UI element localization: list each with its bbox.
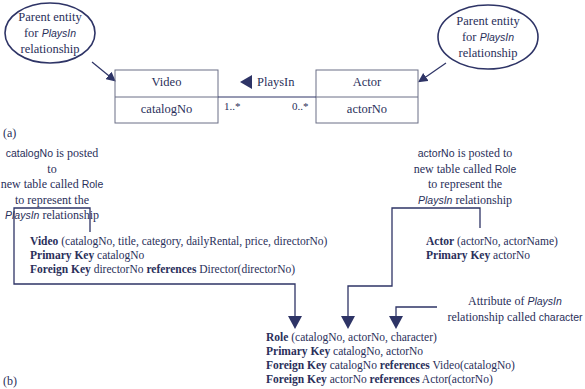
schema-relation-line: Actor (actorNo, actorName) [426, 234, 558, 248]
schema-fk-line: Foreign Key directorNo references Direct… [30, 262, 327, 276]
arrow-down-icon [341, 316, 355, 329]
actor-schema: Actor (actorNo, actorName) Primary Key a… [426, 234, 558, 262]
pk-label: Primary Key [30, 249, 94, 261]
note-sans: character [539, 311, 583, 323]
schema-pk-line: Primary Key catalogNo, actorNo [266, 344, 515, 358]
relation-attributes: (actorNo, actorName) [454, 235, 558, 247]
relationship-label: PlaysIn [257, 75, 295, 90]
video-schema: Video (catalogNo, title, category, daily… [30, 234, 327, 276]
fk-attribute: actorNo [327, 373, 370, 385]
callout-text: for [462, 30, 480, 44]
relation-attributes: (catalogNo, title, category, dailyRental… [58, 235, 327, 247]
note-line: actorNo is posted to [380, 146, 550, 162]
note-line: catalogNo is posted to [0, 146, 104, 177]
schema-pk-line: Primary Key catalogNo [30, 248, 327, 262]
pk-value: actorNo [490, 249, 530, 261]
note-text: relationship [452, 193, 512, 207]
part-a-label: (a) [3, 126, 16, 141]
fk-reference: Video(catalogNo) [430, 359, 515, 371]
video-entity-attribute: catalogNo [115, 102, 218, 117]
video-entity-name: Video [115, 75, 218, 90]
fk-attribute: catalogNo [327, 359, 380, 371]
callout-line: relationship [6, 41, 94, 57]
references-label: references [380, 359, 430, 371]
callout-line: Parent entity [440, 13, 536, 29]
callout-line: relationship [440, 45, 536, 61]
note-line: new table called Role [0, 177, 104, 193]
schema-relation-line: Video (catalogNo, title, category, daily… [30, 234, 327, 248]
schema-fk-line: Foreign Key catalogNo references Video(c… [266, 358, 515, 372]
multiplicity-video: 1..* [224, 100, 241, 112]
relation-name: Video [30, 235, 58, 247]
part-b-label: (b) [3, 374, 17, 389]
fk-label: Foreign Key [266, 373, 327, 385]
pk-label: Primary Key [426, 249, 490, 261]
note-sans: catalogNo [6, 147, 53, 159]
schema-relation-line: Role (catalogNo, actorNo, character) [266, 330, 515, 344]
note-text: is posted to [47, 146, 98, 176]
relation-name: Actor [426, 235, 454, 247]
references-label: references [370, 373, 420, 385]
note-line: Attribute of PlaysIn [440, 294, 585, 310]
note-text: new table called [414, 162, 495, 176]
fk-reference: Actor(actorNo) [420, 373, 493, 385]
note-text: Attribute of [468, 294, 527, 308]
references-label: references [146, 263, 196, 275]
playsin-direction-icon [240, 75, 252, 89]
relationship-name: PlaysIn [42, 27, 76, 39]
pk-label: Primary Key [266, 345, 330, 357]
note-sans: Role [495, 163, 517, 175]
note-text: relationship [39, 208, 99, 222]
relationship-name: PlaysIn [480, 31, 514, 43]
schema-fk-line: Foreign Key actorNo references Actor(act… [266, 372, 515, 386]
pk-value: catalogNo [94, 249, 144, 261]
right-callout-text: Parent entity for PlaysIn relationship [440, 13, 536, 61]
left-posting-note: catalogNo is posted to new table called … [0, 146, 104, 224]
note-sans: Role [82, 178, 104, 190]
arrow-down-icon [389, 316, 403, 329]
callout-line: Parent entity [6, 9, 94, 25]
note-line: PlaysIn relationship [380, 193, 550, 209]
left-callout-text: Parent entity for PlaysIn relationship [6, 9, 94, 57]
right-posting-note: actorNo is posted to new table called Ro… [380, 146, 550, 208]
pk-value: catalogNo, actorNo [330, 345, 423, 357]
arrow-down-icon [288, 316, 302, 329]
fk-label: Foreign Key [266, 359, 327, 371]
fk-reference: Director(directorNo) [196, 263, 295, 275]
relationship-name: PlaysIn [5, 209, 39, 221]
multiplicity-actor: 0..* [292, 100, 309, 112]
relation-attributes: (catalogNo, actorNo, character) [288, 331, 436, 343]
relation-name: Role [266, 331, 288, 343]
note-line: relationship called character [440, 310, 585, 326]
note-text: relationship called [447, 310, 538, 324]
fk-attribute: directorNo [91, 263, 147, 275]
note-text: is posted to [455, 146, 513, 160]
right-callout-pointer [420, 63, 446, 81]
note-line: to represent the [0, 193, 104, 209]
role-schema: Role (catalogNo, actorNo, character) Pri… [266, 330, 515, 386]
left-callout-pointer [92, 62, 114, 80]
note-line: new table called Role [380, 162, 550, 178]
actor-entity-name: Actor [316, 75, 418, 90]
note-text: new table called [1, 177, 82, 191]
schema-pk-line: Primary Key actorNo [426, 248, 558, 262]
character-attribute-note: Attribute of PlaysIn relationship called… [440, 294, 585, 325]
note-line: PlaysIn relationship [0, 208, 104, 224]
note-line: to represent the [380, 177, 550, 193]
relationship-name: PlaysIn [418, 194, 452, 206]
relationship-name: PlaysIn [527, 295, 561, 307]
callout-line: for PlaysIn [440, 29, 536, 45]
callout-line: for PlaysIn [6, 25, 94, 41]
fk-label: Foreign Key [30, 263, 91, 275]
note-sans: actorNo [418, 147, 455, 159]
callout-text: for [24, 26, 42, 40]
actor-entity-attribute: actorNo [316, 102, 418, 117]
